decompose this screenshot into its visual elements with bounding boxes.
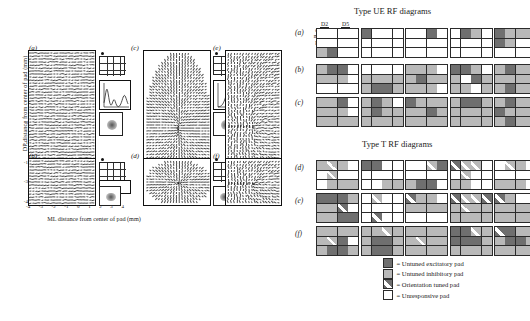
vector-tick [207, 104, 210, 106]
vector-tick [37, 161, 40, 162]
rf-cell [495, 108, 505, 117]
rf-cell [427, 246, 437, 255]
rf-cell [427, 171, 437, 180]
vector-tick [277, 59, 280, 61]
rf-cell [471, 237, 481, 246]
vector-tick [240, 128, 241, 131]
rf-cell [461, 237, 471, 246]
vector-tick [77, 166, 80, 167]
vector-tick [68, 80, 71, 81]
vector-tick [92, 148, 94, 149]
rf-cell [505, 39, 515, 48]
vector-tick [52, 106, 55, 107]
vector-tick [277, 151, 279, 152]
vector-tick [254, 173, 256, 175]
vector-tick [53, 133, 56, 134]
vector-tick [228, 167, 229, 169]
vector-tick [55, 185, 58, 186]
vector-tick [35, 140, 38, 141]
vector-tick [206, 136, 209, 137]
vector-tick [64, 185, 67, 186]
column-header-d2: D2 [320, 21, 329, 27]
rf-cell [317, 98, 327, 107]
vector-tick [46, 134, 49, 136]
rf-grid [405, 28, 448, 58]
rf-cell [505, 204, 515, 213]
rf-grid [361, 193, 404, 223]
rf-cell [348, 180, 358, 189]
vector-tick [56, 178, 58, 179]
vector-tick [239, 86, 241, 88]
vector-tick [65, 74, 68, 75]
vector-tick [240, 173, 241, 175]
rf-cell [451, 227, 461, 236]
rf-cell [382, 108, 392, 117]
vector-tick [254, 77, 256, 79]
vector-tick [239, 107, 240, 109]
vector-tick [88, 146, 91, 147]
vector-tick [277, 92, 279, 94]
vector-tick [29, 142, 32, 143]
vector-tick [273, 110, 276, 112]
vector-tick [207, 128, 210, 129]
vector-tick [231, 194, 232, 197]
legend-label: = Untuned excitatory pad [397, 260, 464, 267]
vector-tick [71, 124, 73, 125]
legend-swatch-unresponsive-icon [383, 290, 393, 300]
vector-tick [167, 200, 169, 203]
inset-grid-a [99, 56, 125, 75]
vector-tick [55, 160, 58, 161]
rf-cell [495, 161, 505, 170]
vector-tick [92, 125, 94, 126]
vector-tick [206, 187, 209, 188]
rf-cell [516, 117, 526, 126]
vector-tick [88, 181, 91, 182]
vector-tick [46, 182, 49, 183]
rf-cell [482, 194, 492, 203]
vector-tick [40, 71, 43, 72]
vector-tick [80, 170, 82, 171]
x-tick: 4 [121, 204, 124, 209]
marker-dot [215, 52, 218, 55]
vector-tick [176, 141, 177, 143]
vector-tick [239, 65, 241, 67]
vector-tick [237, 107, 238, 109]
vector-tick [46, 53, 49, 54]
rf-cell [362, 213, 372, 222]
vector-tick [262, 184, 264, 185]
rf-cell [461, 39, 471, 48]
vector-tick [44, 95, 46, 96]
rf-cell [382, 75, 392, 84]
rf-cell [338, 171, 348, 180]
vector-tick [264, 77, 267, 79]
rf-cell [471, 171, 481, 180]
vector-tick [179, 77, 180, 79]
vector-tick [41, 115, 44, 116]
rf-cell [461, 108, 471, 117]
rf-cell [505, 213, 515, 222]
vector-tick [89, 119, 91, 120]
vector-tick [92, 89, 95, 90]
rf-cell [327, 48, 337, 57]
grid-line [100, 63, 126, 64]
rf-grid [361, 226, 404, 256]
vector-tick [207, 154, 209, 155]
inset-grid-b [99, 162, 125, 181]
rf-cell [505, 237, 515, 246]
vector-tick [86, 119, 88, 120]
rf-cell [427, 48, 437, 57]
rf-cell [416, 75, 426, 84]
vector-tick [92, 106, 94, 107]
vector-tick [176, 200, 177, 203]
legend-item: = Untuned inhibitory pad [383, 269, 530, 280]
rf-cell [482, 213, 492, 222]
rf-cell [327, 237, 337, 246]
vector-tick [273, 125, 276, 126]
vector-tick [92, 166, 95, 167]
vector-tick [207, 119, 210, 120]
rf-cell [461, 213, 471, 222]
vector-tick [204, 170, 206, 172]
vector-tick [204, 92, 207, 94]
rf-cell [362, 117, 372, 126]
rf-cell [482, 180, 492, 189]
